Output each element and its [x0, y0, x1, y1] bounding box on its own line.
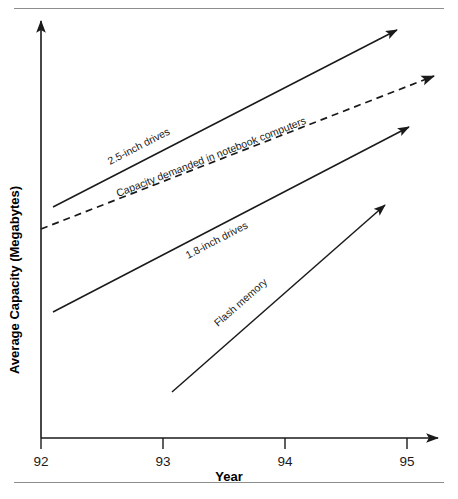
series-label-capacity-demanded: Capacity demanded in notebook computers: [114, 114, 307, 199]
chart-plot-area: 92 93 94 95 Year Average Capacity (Megab…: [0, 0, 458, 499]
series-line-2-5-inch-drives: [53, 30, 397, 207]
chart-figure: 92 93 94 95 Year Average Capacity (Megab…: [0, 0, 458, 499]
x-tick-label-95: 95: [399, 454, 414, 469]
x-axis-title: Year: [215, 469, 242, 484]
x-tick-label-93: 93: [155, 454, 170, 469]
y-axis-title: Average Capacity (Megabytes): [7, 186, 22, 374]
x-tick-label-94: 94: [277, 454, 293, 469]
x-tick-label-92: 92: [33, 454, 48, 469]
series-label-flash-memory: Flash memory: [211, 275, 269, 328]
series-label-2-5-inch-drives: 2.5-inch drives: [105, 125, 171, 167]
